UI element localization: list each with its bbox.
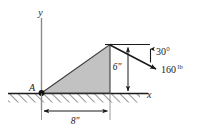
force-magnitude-value: 160 (161, 64, 176, 75)
ground-hatching (8, 94, 140, 103)
triangular-body (42, 45, 111, 94)
statics-figure: y x A 30° 160lb 6″ (0, 0, 200, 131)
y-axis-label: y (37, 7, 43, 18)
figure-canvas: y x A 30° 160lb 6″ (0, 0, 200, 131)
ground-surface (8, 94, 148, 103)
height-dimension-label: 6″ (113, 62, 123, 72)
force-unit-label: lb (178, 63, 183, 70)
force-angle-label: 30° (156, 46, 170, 57)
point-a-label: A (28, 82, 36, 93)
triangle-shape (42, 45, 111, 94)
force-magnitude-label: 160lb (161, 63, 183, 75)
x-axis-label: x (146, 89, 152, 100)
base-dimension-label: 8″ (71, 116, 81, 126)
